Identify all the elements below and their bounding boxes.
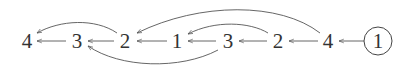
node-label: 4 <box>323 29 334 53</box>
node-label: 2 <box>120 29 131 53</box>
diagram-canvas: 4 3 2 1 3 2 4 1 <box>0 0 417 72</box>
node-label: 3 <box>223 29 234 53</box>
node-label: 4 <box>22 29 33 53</box>
chain-diagram: 4 3 2 1 3 2 4 1 <box>0 0 417 72</box>
node-label: 3 <box>72 29 83 53</box>
node-label: 1 <box>172 29 183 53</box>
edge-n4-n1-curve <box>88 46 218 64</box>
node-label: 2 <box>273 29 284 53</box>
root-node-label: 1 <box>373 29 384 53</box>
